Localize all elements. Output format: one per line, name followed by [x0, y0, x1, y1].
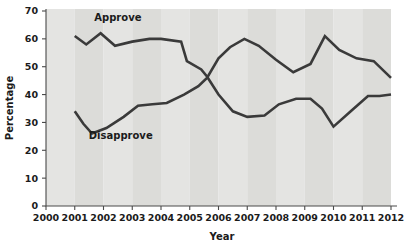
year-band: [362, 9, 391, 206]
y-axis-tick-labels: 010203040506070: [25, 5, 39, 211]
year-band: [46, 9, 75, 206]
y-axis-ticks: [42, 11, 46, 206]
x-tick-label: 2002: [90, 212, 116, 223]
x-tick-label: 2011: [349, 212, 375, 223]
x-tick-label: 2009: [292, 212, 318, 223]
year-band: [247, 9, 276, 206]
y-tick-label: 20: [25, 145, 39, 156]
x-axis-ticks: [46, 206, 391, 210]
year-band: [190, 9, 219, 206]
y-axis-title: Percentage: [4, 76, 15, 141]
series-annotation-disapprove: Disapprove: [89, 130, 153, 141]
y-tick-label: 10: [25, 173, 39, 184]
chart-container: 010203040506070 200020012002200320042005…: [0, 0, 417, 249]
x-tick-label: 2012: [378, 212, 404, 223]
x-tick-label: 2004: [148, 212, 175, 223]
x-tick-label: 2000: [33, 212, 60, 223]
plot-background-bands: [46, 9, 391, 206]
x-tick-label: 2010: [320, 212, 347, 223]
x-tick-label: 2001: [62, 212, 88, 223]
line-chart-svg: 010203040506070 200020012002200320042005…: [0, 0, 417, 249]
x-tick-label: 2005: [177, 212, 203, 223]
x-tick-label: 2008: [263, 212, 290, 223]
x-axis-tick-labels: 2000200120022003200420052006200720082009…: [33, 212, 404, 223]
y-tick-label: 0: [31, 200, 38, 211]
year-band: [276, 9, 305, 206]
x-tick-label: 2003: [119, 212, 145, 223]
x-tick-label: 2006: [205, 212, 232, 223]
x-axis-title: Year: [209, 231, 235, 242]
y-tick-label: 30: [25, 117, 39, 128]
y-tick-label: 50: [25, 61, 39, 72]
year-band: [334, 9, 363, 206]
series-annotation-approve: Approve: [94, 12, 141, 23]
y-tick-label: 60: [25, 33, 39, 44]
y-tick-label: 40: [25, 89, 39, 100]
x-tick-label: 2007: [234, 212, 260, 223]
y-tick-label: 70: [25, 5, 39, 16]
